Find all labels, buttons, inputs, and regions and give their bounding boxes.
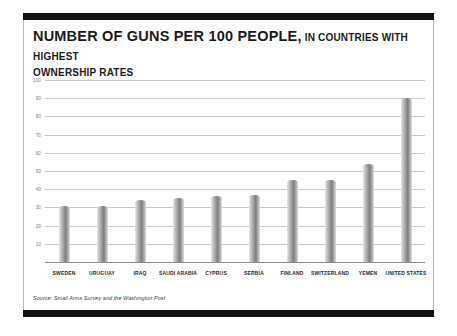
bar-slot[interactable] xyxy=(311,80,349,262)
chart-page: NUMBER OF GUNS PER 100 PEOPLE, IN COUNTR… xyxy=(0,0,457,336)
bar-slot[interactable] xyxy=(45,80,83,262)
axis-baseline xyxy=(45,262,425,263)
chart-title-block: NUMBER OF GUNS PER 100 PEOPLE, IN COUNTR… xyxy=(33,27,425,80)
y-axis-tick-20: 20 xyxy=(25,223,41,228)
bar[interactable] xyxy=(135,200,146,262)
x-axis-label: CYPRUS xyxy=(205,270,227,276)
bottom-band xyxy=(23,310,434,317)
y-axis-tick-50: 50 xyxy=(25,169,41,174)
top-band xyxy=(23,13,434,20)
x-axis-label: SWITZERLAND xyxy=(311,270,349,276)
bar-slot[interactable] xyxy=(387,80,425,262)
x-axis-label: UNITED STATES xyxy=(386,270,427,276)
x-axis-label: SAUDI ARABIA xyxy=(159,270,197,276)
bar[interactable] xyxy=(173,198,184,262)
x-axis-label: SERBIA xyxy=(244,270,264,276)
bar[interactable] xyxy=(97,206,108,262)
bar-slot[interactable] xyxy=(83,80,121,262)
bar-series xyxy=(45,80,425,262)
bar[interactable] xyxy=(59,206,70,262)
bar-slot[interactable] xyxy=(197,80,235,262)
bar-slot[interactable] xyxy=(273,80,311,262)
x-axis-label: IRAQ xyxy=(133,270,146,276)
y-axis-tick-30: 30 xyxy=(25,205,41,210)
y-axis-tick-70: 70 xyxy=(25,132,41,137)
x-axis-label: SWEDEN xyxy=(53,270,76,276)
bar-slot[interactable] xyxy=(235,80,273,262)
bar-slot[interactable] xyxy=(159,80,197,262)
page-subtitle-line2: OWNERSHIP RATES xyxy=(33,66,425,80)
y-axis-tick-60: 60 xyxy=(25,150,41,155)
bar[interactable] xyxy=(249,195,260,262)
bar[interactable] xyxy=(325,180,336,262)
bar[interactable] xyxy=(401,98,412,262)
page-title: NUMBER OF GUNS PER 100 PEOPLE, xyxy=(33,28,302,44)
y-axis-tick-90: 90 xyxy=(25,96,41,101)
bar[interactable] xyxy=(211,196,222,262)
y-axis-tick-40: 40 xyxy=(25,187,41,192)
bar[interactable] xyxy=(287,180,298,262)
source-note: Source: Small Arms Survey and the Washin… xyxy=(33,295,165,301)
y-axis-tick-10: 10 xyxy=(25,241,41,246)
x-axis-label: FINLAND xyxy=(281,270,304,276)
bar-slot[interactable] xyxy=(121,80,159,262)
bar[interactable] xyxy=(363,164,374,262)
x-axis-labels: SWEDENURUGUAYIRAQSAUDI ARABIACYPRUSSERBI… xyxy=(45,270,425,282)
y-axis-tick-80: 80 xyxy=(25,114,41,119)
plot-area: 102030405060708090100 xyxy=(33,80,425,262)
x-axis-label: URUGUAY xyxy=(89,270,115,276)
bar-slot[interactable] xyxy=(349,80,387,262)
y-axis-tick-100: 100 xyxy=(25,78,41,83)
x-axis-label: YEMEN xyxy=(359,270,378,276)
